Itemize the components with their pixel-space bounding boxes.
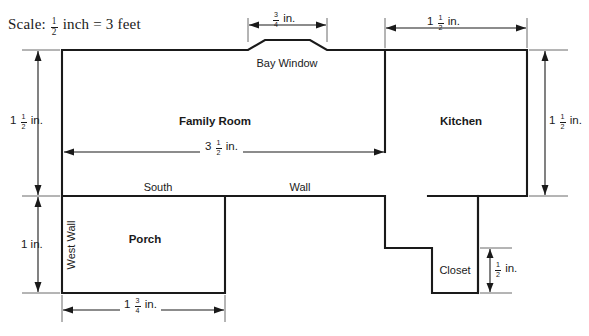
right-arrow-top (542, 51, 549, 61)
dim-label-bay-window-width: 3 4 in. (272, 12, 295, 29)
left-lower-arrow-top (35, 197, 42, 207)
dim-fraction-porch-width: 3 4 (135, 298, 141, 315)
dim-fraction-bay-window: 3 4 (273, 12, 279, 29)
room-label-family-room: Family Room (179, 115, 251, 127)
dim-label-house-width: 3 1 2 in. (200, 140, 243, 157)
dim-numerator: 1 (438, 15, 444, 22)
dim-label-closet-height: 1 2 in. (494, 262, 517, 279)
dim-unit: in. (31, 238, 43, 250)
room-label-closet: Closet (439, 264, 470, 276)
closet-arrow-top (487, 249, 494, 258)
dim-label-porch-height: 1 in. (21, 238, 43, 250)
dim-unit: in. (570, 114, 582, 126)
floor-plan-svg: Family Room Kitchen Porch Closet Bay Win… (0, 0, 589, 336)
kitchen-width-arrow-left (386, 25, 396, 32)
dim-denominator: 2 (216, 150, 222, 157)
right-arrow-bottom (542, 185, 549, 195)
kitchen-width-arrow-right (516, 25, 526, 32)
room-label-bay-window: Bay Window (256, 57, 317, 69)
dim-denominator: 4 (273, 22, 279, 29)
dim-numerator: 1 (560, 114, 566, 121)
dim-label-porch-width: 1 3 4 in. (120, 298, 161, 315)
closet-arrow-bottom (487, 283, 494, 292)
dim-fraction-kitchen-height: 1 2 (560, 114, 566, 131)
left-lower-arrow-bottom (35, 282, 42, 292)
floor-plan-diagram: Scale: 1 2 inch = 3 feet (0, 0, 589, 336)
bay-window-arrow-right (316, 22, 326, 29)
left-upper-arrow-bottom (35, 185, 42, 195)
dim-fraction-family-room-height: 1 2 (21, 114, 27, 131)
dim-unit: in. (145, 298, 157, 310)
dim-unit: in. (505, 262, 517, 274)
dim-denominator: 4 (135, 308, 141, 315)
dim-whole: 1 (427, 15, 433, 27)
dim-denominator: 2 (560, 124, 566, 131)
dim-whole: 1 (124, 298, 130, 310)
dim-numerator: 1 (21, 114, 27, 121)
dim-unit: in. (226, 140, 238, 152)
wall-label-west-wall: West Wall (65, 221, 77, 270)
dim-numerator: 1 (495, 262, 501, 269)
dim-whole: 1 (21, 238, 27, 250)
dim-label-family-room-height: 1 1 2 in. (10, 114, 43, 131)
porch-width-arrow-left (63, 307, 73, 314)
dim-fraction-closet-height: 1 2 (495, 262, 501, 279)
house-outline-wall (62, 40, 527, 293)
dim-numerator: 3 (135, 298, 141, 305)
wall-label-wall: Wall (290, 181, 311, 193)
interior-width-arrow-left (64, 149, 74, 156)
room-label-kitchen: Kitchen (440, 115, 482, 127)
interior-width-arrow-right (374, 149, 384, 156)
dim-whole: 1 (549, 114, 555, 126)
left-upper-arrow-top (35, 51, 42, 61)
dim-numerator: 3 (273, 12, 279, 19)
dim-label-kitchen-height: 1 1 2 in. (549, 114, 582, 131)
dim-fraction-house-width: 1 2 (216, 140, 222, 157)
wall-label-south: South (144, 181, 173, 193)
porch-width-arrow-right (214, 307, 224, 314)
dim-denominator: 2 (495, 272, 501, 279)
dim-fraction-kitchen-width: 1 2 (438, 15, 444, 32)
dim-whole: 3 (205, 140, 211, 152)
dim-label-kitchen-width: 1 1 2 in. (427, 15, 460, 32)
dim-whole: 1 (10, 114, 16, 126)
dim-unit: in. (31, 114, 43, 126)
dim-denominator: 2 (21, 124, 27, 131)
dim-unit: in. (448, 15, 460, 27)
dim-numerator: 1 (216, 140, 222, 147)
dim-denominator: 2 (438, 25, 444, 32)
dim-unit: in. (283, 12, 295, 24)
room-label-porch: Porch (129, 233, 162, 245)
bay-window-arrow-left (249, 22, 259, 29)
